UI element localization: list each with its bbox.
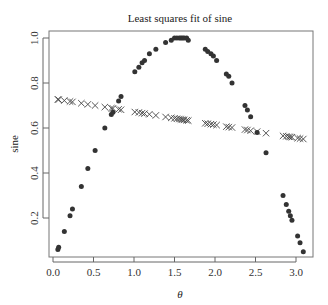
y-axis: 0.20.40.60.81.0: [28, 31, 49, 225]
y-tick-label: 1.0: [28, 31, 40, 45]
scatter-chart: Least squares fit of sine 0.00.51.01.52.…: [0, 0, 328, 305]
dot-marker: [132, 69, 137, 74]
dot-marker: [298, 240, 303, 245]
dot-marker: [62, 229, 67, 234]
dot-marker: [226, 74, 231, 79]
dot-marker: [230, 81, 235, 86]
cross-marker: [78, 100, 84, 106]
dot-marker: [85, 166, 90, 171]
dot-marker: [119, 94, 124, 99]
fit-series-crosses: [55, 96, 307, 142]
y-tick-label: 0.6: [28, 121, 40, 135]
cross-marker: [162, 114, 168, 120]
cross-marker: [85, 101, 91, 107]
cross-marker: [92, 102, 98, 108]
x-tick-label: 0.5: [87, 266, 101, 278]
dot-marker: [186, 38, 191, 43]
dot-marker: [284, 202, 289, 207]
dot-marker: [70, 207, 75, 212]
dot-marker: [163, 40, 168, 45]
dot-marker: [102, 126, 107, 131]
chart-title: Least squares fit of sine: [128, 12, 233, 24]
x-axis-label: θ: [177, 288, 183, 300]
dot-marker: [248, 114, 253, 119]
dot-marker: [136, 65, 141, 70]
dot-marker: [116, 99, 121, 104]
dot-marker: [214, 58, 219, 63]
dot-marker: [110, 110, 115, 115]
y-axis-label: sine: [8, 135, 20, 153]
dot-marker: [288, 213, 293, 218]
dot-marker: [295, 234, 300, 239]
dot-marker: [68, 213, 73, 218]
dot-marker: [255, 130, 260, 135]
y-tick-label: 0.4: [28, 166, 40, 180]
x-tick-label: 1.0: [127, 266, 141, 278]
x-axis: 0.00.51.01.52.02.53.0: [46, 257, 303, 278]
x-tick-label: 3.0: [289, 266, 303, 278]
dot-marker: [289, 218, 294, 223]
dot-marker: [93, 148, 98, 153]
x-tick-label: 0.0: [46, 266, 60, 278]
dot-marker: [242, 103, 247, 108]
cross-marker: [55, 96, 61, 102]
x-tick-label: 1.5: [168, 266, 182, 278]
cross-marker: [153, 112, 159, 118]
x-tick-label: 2.0: [208, 266, 222, 278]
plot-frame: [49, 31, 313, 257]
dot-marker: [79, 184, 84, 189]
dot-marker: [301, 249, 306, 254]
dot-marker: [281, 193, 286, 198]
cross-marker: [61, 97, 67, 103]
dot-marker: [147, 51, 152, 56]
dot-marker: [142, 58, 147, 63]
y-tick-label: 0.2: [28, 211, 40, 225]
dot-marker: [286, 209, 291, 214]
sine-series-points: [55, 36, 305, 255]
dot-marker: [56, 245, 61, 250]
dot-marker: [153, 47, 158, 52]
dot-marker: [264, 150, 269, 155]
dot-marker: [211, 54, 216, 59]
cross-marker: [263, 130, 269, 136]
y-tick-label: 0.8: [28, 76, 40, 90]
cross-marker: [146, 111, 152, 117]
dot-marker: [245, 108, 250, 113]
cross-marker: [102, 104, 108, 110]
x-tick-label: 2.5: [249, 266, 263, 278]
